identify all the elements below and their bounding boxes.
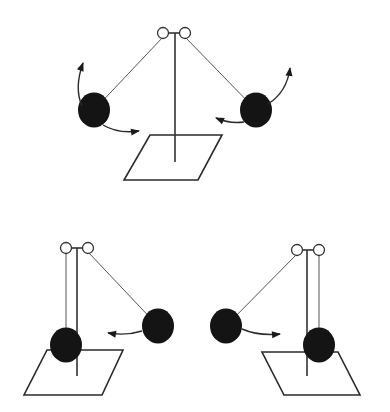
pivot-ring-icon xyxy=(314,245,325,256)
base-plate xyxy=(124,135,222,180)
arrow-head-icon xyxy=(286,67,293,76)
pivot-ring-icon xyxy=(292,245,303,256)
arrow-head-icon xyxy=(131,129,140,136)
figure-top xyxy=(77,28,292,181)
arrow-head-icon xyxy=(77,62,84,72)
pivot-ring-icon xyxy=(83,243,94,254)
pivot-ring-icon xyxy=(158,28,169,39)
charged-ball xyxy=(210,309,242,344)
arrow-head-icon xyxy=(107,331,116,338)
charged-ball xyxy=(142,309,174,344)
charged-ball xyxy=(303,328,335,363)
charged-ball xyxy=(78,93,110,128)
charged-ball xyxy=(240,93,272,128)
figure-bottom-right xyxy=(210,245,360,396)
pivot-ring-icon xyxy=(61,243,72,254)
figure-bottom-left xyxy=(24,243,174,396)
charged-ball xyxy=(50,328,82,363)
arrow-head-icon xyxy=(215,118,225,125)
pendulum-diagram xyxy=(0,0,390,412)
pivot-ring-icon xyxy=(180,28,191,39)
